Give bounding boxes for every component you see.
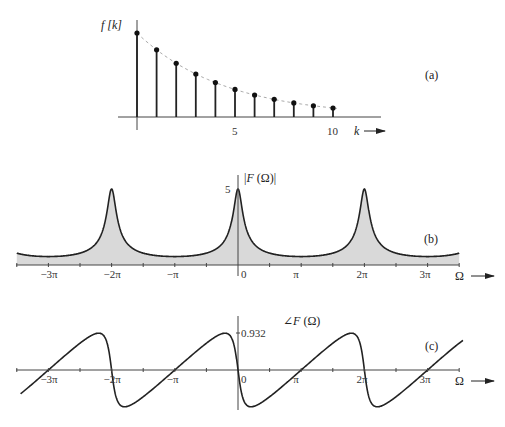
stem-dot bbox=[232, 87, 237, 92]
ytick-5: 5 bbox=[225, 183, 231, 195]
xtick-label: 0 bbox=[241, 373, 247, 385]
ylabel-b: |F (Ω)| bbox=[244, 171, 276, 185]
xlabel-c: Ω bbox=[455, 374, 464, 388]
panel-label-b: (b) bbox=[424, 232, 438, 246]
tick-5: 5 bbox=[232, 125, 238, 137]
xtick-label: 3π bbox=[420, 268, 432, 280]
stem-dot bbox=[252, 92, 257, 97]
xtick-label: 2π bbox=[356, 268, 368, 280]
xlabel-a: k bbox=[354, 124, 360, 138]
ytick-0932: 0.932 bbox=[241, 327, 266, 339]
panel-a: f [k] 5 10 k (a) bbox=[101, 18, 438, 138]
xtick-label: 0 bbox=[241, 268, 247, 280]
stems bbox=[134, 30, 335, 117]
xtick-label: −3π bbox=[40, 373, 58, 385]
xtick-label: π bbox=[293, 268, 299, 280]
stem-dot bbox=[291, 100, 296, 105]
envelope-curve bbox=[137, 33, 337, 108]
xtick-label: −π bbox=[167, 373, 179, 385]
figure: f [k] 5 10 k (a) −3π−2π−π0π2π3π 5 |F (Ω)… bbox=[0, 0, 505, 427]
panel-c: −3π−2π−π0π2π3π 0.932 ∠F (Ω) (c) Ω bbox=[16, 314, 494, 410]
ylabel-c: ∠F (Ω) bbox=[283, 314, 320, 328]
stem-dot bbox=[272, 97, 277, 102]
stem-dot bbox=[330, 105, 335, 110]
xtick-label: −2π bbox=[104, 268, 122, 280]
panel-label-c: (c) bbox=[425, 339, 438, 353]
panel-label-a: (a) bbox=[425, 68, 438, 82]
stem-dot bbox=[213, 80, 218, 85]
xtick-label: 3π bbox=[420, 373, 432, 385]
tick-10: 10 bbox=[327, 125, 339, 137]
xlabel-b: Ω bbox=[455, 269, 464, 283]
xtick-label: 2π bbox=[356, 373, 368, 385]
ylabel-a: f [k] bbox=[101, 18, 122, 32]
xtick-label: −π bbox=[167, 268, 179, 280]
xtick-label: −3π bbox=[40, 268, 58, 280]
stem-dot bbox=[311, 103, 316, 108]
stem-dot bbox=[193, 71, 198, 76]
stem-dot bbox=[174, 61, 179, 66]
stem-dot bbox=[154, 47, 159, 52]
xtick-label: −2π bbox=[104, 373, 122, 385]
panel-b: −3π−2π−π0π2π3π 5 |F (Ω)| (b) Ω bbox=[16, 171, 494, 283]
xtick-label: π bbox=[293, 373, 299, 385]
stem-dot bbox=[134, 30, 139, 35]
